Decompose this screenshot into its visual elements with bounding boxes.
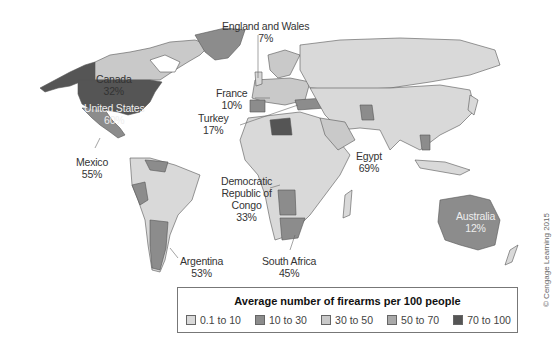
legend-swatch: [321, 315, 331, 325]
leader-mexico: [95, 138, 100, 148]
legend-swatch: [453, 315, 463, 325]
legend-title: Average number of firearms per 100 peopl…: [178, 295, 517, 307]
label-australia: Australia 12%: [456, 210, 495, 234]
legend-item: 10 to 30: [255, 314, 307, 326]
leader-argentina: [170, 248, 178, 258]
region-peru: [132, 182, 148, 205]
region-pakistan: [360, 105, 374, 120]
legend-item: 50 to 70: [387, 314, 439, 326]
label-mexico: Mexico 55%: [76, 156, 108, 180]
legend-swatch: [186, 315, 196, 325]
label-turkey: Turkey 17%: [198, 112, 229, 136]
label-egypt: Egypt 69%: [356, 150, 382, 174]
legend: Average number of firearms per 100 peopl…: [177, 287, 518, 333]
label-canada: Canada 32%: [96, 73, 132, 97]
label-united-states: United States 60%: [84, 102, 144, 126]
region-new-zealand: [505, 245, 518, 265]
region-angola: [278, 190, 296, 215]
region-indonesia: [415, 160, 470, 175]
region-uk: [255, 72, 262, 86]
region-russia: [300, 38, 500, 90]
region-madagascar: [343, 190, 352, 218]
region-scandinavia: [268, 50, 300, 78]
legend-swatch: [255, 315, 265, 325]
legend-swatch: [387, 315, 397, 325]
legend-item: 30 to 50: [321, 314, 373, 326]
label-france: France 10%: [216, 87, 247, 111]
label-drc: Democratic Republic of Congo 33%: [221, 175, 272, 223]
region-libya: [270, 118, 292, 135]
copyright-credit: © Cengage Learning 2015: [542, 213, 551, 307]
region-argentina: [150, 220, 168, 270]
region-south-africa: [280, 218, 305, 240]
label-argentina: Argentina 53%: [180, 255, 223, 279]
legend-item: 70 to 100: [453, 314, 511, 326]
label-south-africa: South Africa 45%: [262, 255, 316, 279]
label-england-wales: England and Wales 7%: [222, 20, 309, 44]
region-spain: [250, 100, 265, 112]
region-thailand: [420, 135, 430, 150]
legend-items: 0.1 to 10 10 to 30 30 to 50 50 to 70 70 …: [186, 314, 511, 326]
legend-item: 0.1 to 10: [186, 314, 241, 326]
